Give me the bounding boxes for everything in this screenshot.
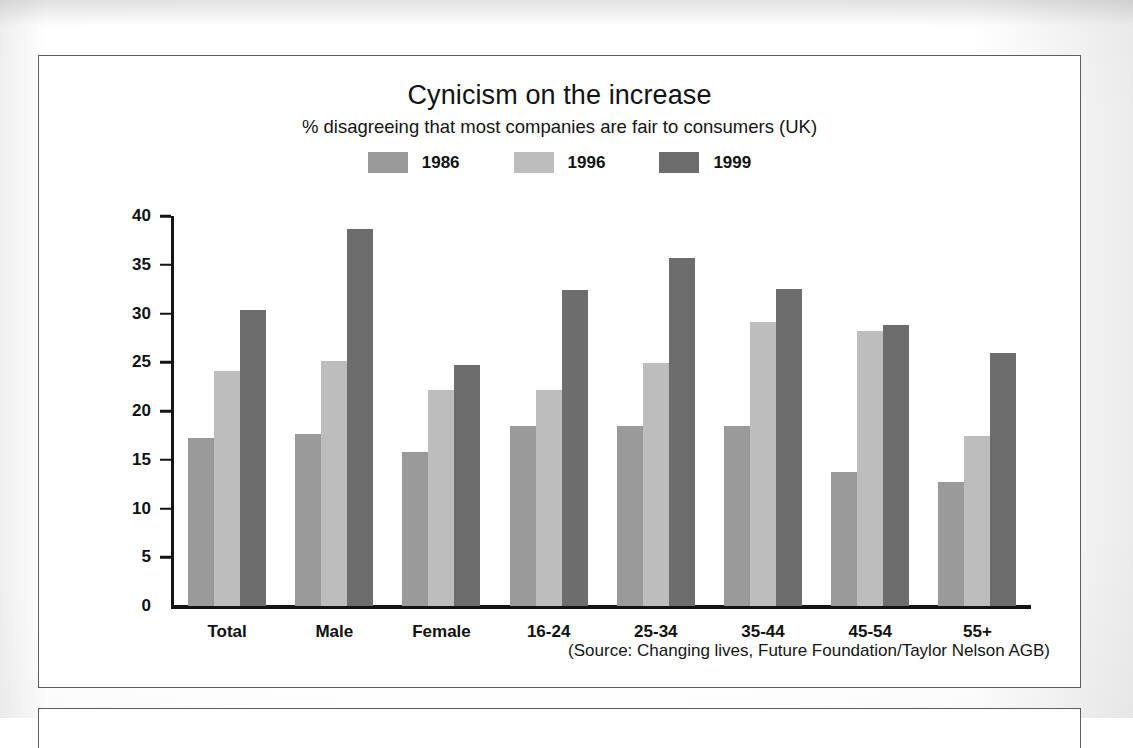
legend-label-1999: 1999	[713, 153, 751, 173]
y-tick-mark-25	[160, 361, 171, 364]
x-axis-label-16-24: 16-24	[495, 622, 602, 642]
y-tick-label-15: 15	[132, 450, 151, 470]
bar-55+-1996	[964, 436, 990, 606]
x-axis-label-Male: Male	[281, 622, 388, 642]
y-tick-mark-30	[160, 312, 171, 315]
bar-45-54-1999	[883, 325, 909, 606]
bar-25-34-1996	[643, 363, 669, 606]
y-tick-label-40: 40	[132, 206, 151, 226]
x-axis-label-35-44: 35-44	[709, 622, 816, 642]
legend-item-1986: 1986	[368, 152, 460, 173]
bar-35-44-1996	[750, 322, 776, 606]
legend-label-1996: 1996	[568, 153, 606, 173]
y-tick-mark-10	[160, 507, 171, 510]
bar-Female-1986	[402, 452, 428, 606]
x-axis-label-55+: 55+	[924, 622, 1031, 642]
plot-area: 4035302520151050 TotalMaleFemale16-2425-…	[171, 216, 1031, 606]
legend-item-1999: 1999	[659, 152, 751, 173]
bar-Female-1999	[454, 365, 480, 606]
bar-group-45-54: 45-54	[817, 216, 924, 606]
bar-group-Total: Total	[174, 216, 281, 606]
chart-subtitle: % disagreeing that most companies are fa…	[39, 116, 1080, 138]
chart-title: Cynicism on the increase	[39, 80, 1080, 111]
legend-label-1986: 1986	[422, 153, 460, 173]
bar-16-24-1999	[562, 290, 588, 606]
bar-Total-1996	[214, 371, 240, 606]
legend-item-1996: 1996	[514, 152, 606, 173]
bar-25-34-1986	[617, 426, 643, 606]
bar-groups: TotalMaleFemale16-2425-3435-4445-5455+	[174, 216, 1032, 606]
chart-legend: 198619961999	[39, 152, 1080, 173]
x-axis-label-45-54: 45-54	[817, 622, 924, 642]
y-tick-label-35: 35	[132, 255, 151, 275]
bar-Female-1996	[428, 390, 454, 606]
x-axis-label-25-34: 25-34	[602, 622, 709, 642]
bar-group-55+: 55+	[924, 216, 1031, 606]
bar-group-16-24: 16-24	[495, 216, 602, 606]
bar-45-54-1996	[857, 331, 883, 606]
y-tick-label-25: 25	[132, 352, 151, 372]
legend-swatch-1999	[659, 152, 699, 173]
bar-55+-1999	[990, 353, 1016, 606]
bar-group-35-44: 35-44	[709, 216, 816, 606]
bar-Male-1986	[295, 434, 321, 606]
bar-group-Male: Male	[281, 216, 388, 606]
y-tick-label-30: 30	[132, 304, 151, 324]
bar-25-34-1999	[669, 258, 695, 606]
bar-35-44-1999	[776, 289, 802, 606]
bar-Total-1999	[240, 310, 266, 606]
x-axis-label-Female: Female	[388, 622, 495, 642]
y-tick-label-5: 5	[142, 547, 151, 567]
y-tick-mark-35	[160, 264, 171, 267]
bar-55+-1986	[938, 482, 964, 606]
bar-Male-1996	[321, 361, 347, 606]
y-tick-mark-20	[160, 410, 171, 413]
y-tick-mark-15	[160, 459, 171, 462]
bar-16-24-1996	[536, 390, 562, 606]
y-tick-mark-40	[160, 215, 171, 218]
x-axis-label-Total: Total	[174, 622, 281, 642]
bar-45-54-1986	[831, 472, 857, 606]
bar-group-Female: Female	[388, 216, 495, 606]
legend-swatch-1996	[514, 152, 554, 173]
source-note: (Source: Changing lives, Future Foundati…	[568, 641, 1050, 661]
bar-35-44-1986	[724, 426, 750, 606]
y-tick-mark-5	[160, 556, 171, 559]
next-figure-box	[38, 708, 1081, 748]
y-tick-label-10: 10	[132, 499, 151, 519]
legend-swatch-1986	[368, 152, 408, 173]
y-tick-label-20: 20	[132, 401, 151, 421]
bar-group-25-34: 25-34	[602, 216, 709, 606]
y-tick-label-0: 0	[142, 596, 151, 616]
bar-Total-1986	[188, 438, 214, 606]
figure-container: Cynicism on the increase % disagreeing t…	[38, 55, 1081, 688]
bar-16-24-1986	[510, 426, 536, 606]
bar-Male-1999	[347, 229, 373, 606]
